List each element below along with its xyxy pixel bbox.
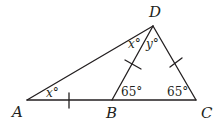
label-C: C bbox=[201, 104, 213, 121]
label-A: A bbox=[10, 103, 23, 121]
angle-label-ADB: x° bbox=[128, 37, 141, 51]
angle-label-BDC: y° bbox=[145, 37, 159, 51]
geometry-diagram: A B C D x° x° y° 65° 65° bbox=[0, 0, 219, 121]
angle-label-A: x° bbox=[46, 86, 59, 100]
angle-label-B: 65° bbox=[121, 85, 142, 99]
label-D: D bbox=[148, 3, 161, 21]
angle-label-C: 65° bbox=[167, 85, 188, 99]
label-B: B bbox=[105, 104, 117, 121]
